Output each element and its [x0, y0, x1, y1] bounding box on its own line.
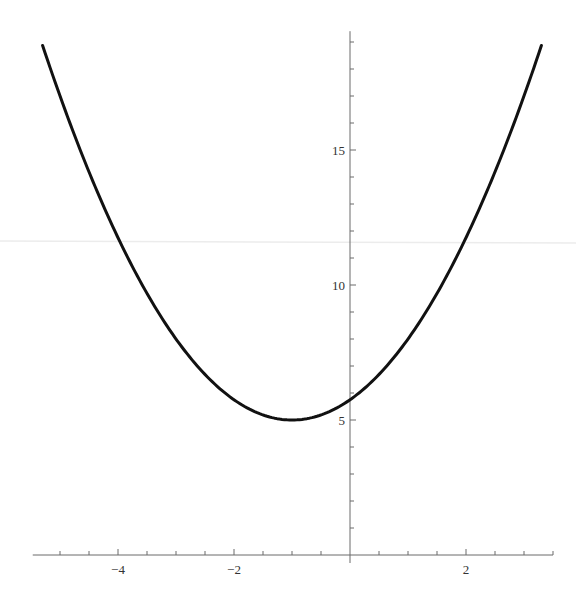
chart-plot-area: −4−22 51015	[0, 0, 576, 601]
y-tick-label: 10	[332, 278, 345, 293]
x-tick-label: −4	[111, 562, 125, 577]
y-tick-label: 5	[339, 413, 346, 428]
x-axis	[33, 549, 553, 555]
scan-artifact-line	[0, 241, 576, 243]
y-axis	[350, 31, 356, 563]
x-tick-label: 2	[463, 562, 470, 577]
y-tick-labels: 51015	[332, 143, 345, 428]
x-tick-label: −2	[227, 562, 241, 577]
y-tick-label: 15	[332, 143, 345, 158]
x-tick-labels: −4−22	[111, 562, 469, 577]
parabola-curve	[43, 46, 542, 420]
